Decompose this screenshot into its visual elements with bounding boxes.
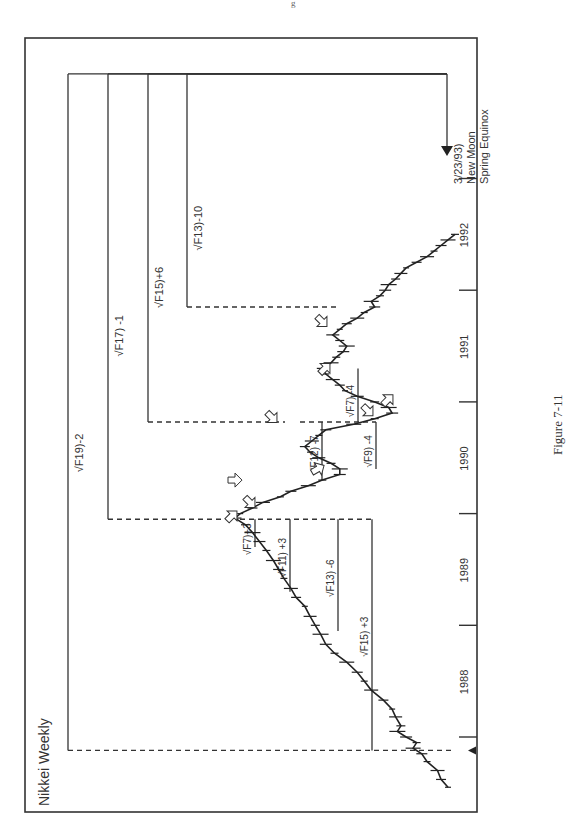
chart-frame xyxy=(25,38,477,812)
price-series xyxy=(229,234,460,787)
price-line xyxy=(235,234,455,787)
hollow-arrow-icon xyxy=(262,408,282,428)
cycle-label: √F17) -1 xyxy=(113,315,125,357)
cycle-bracket-label: √F11) +3 xyxy=(277,538,288,578)
figure-caption: Figure 7-11 xyxy=(550,394,565,455)
axis-tick-label: 1988 xyxy=(458,670,470,694)
cycle-label: √F15)+6 xyxy=(153,267,165,308)
axis-tick-label: 1991 xyxy=(458,335,470,359)
hollow-arrow-icon xyxy=(222,506,242,526)
hollow-arrow-icon xyxy=(312,312,332,332)
target-label-line: Spring Equinox xyxy=(478,109,490,184)
cycle-bracket-label: √F9) -4 xyxy=(363,435,374,468)
time-axis: 19881989199019911992 xyxy=(458,179,477,738)
low-arrow-icon xyxy=(468,746,476,754)
cycle-bracket-label: √F15) +3 xyxy=(359,616,370,657)
axis-tick-label: 1992 xyxy=(458,223,470,247)
axis-tick-label: 1989 xyxy=(458,558,470,582)
cycle-label: √F13)-10 xyxy=(192,206,204,251)
page-number: g xyxy=(291,0,296,8)
hollow-arrow-icon xyxy=(228,473,242,487)
target-label-line: 3/23/93) xyxy=(452,144,464,184)
cycle-bracket-label: √F13) -6 xyxy=(325,559,336,597)
cycle-bracket-label: √F7) -4 xyxy=(345,385,356,418)
target-date-label: 3/23/93)New MoonSpring Equinox xyxy=(452,109,490,184)
cycle-annotations: √F19)-2√F17) -1√F15)+6√F13)-10√F15) +3√F… xyxy=(68,74,454,750)
chart-title: Nikkei Weekly xyxy=(36,718,52,806)
target-label-line: New Moon xyxy=(465,131,477,184)
hollow-arrow-icon xyxy=(358,401,378,421)
cycle-label: √F19)-2 xyxy=(73,434,85,472)
axis-tick-label: 1990 xyxy=(458,446,470,470)
chart-figure: g 19881989199019911992 √F19)-2√F17) -1√F… xyxy=(0,0,581,839)
